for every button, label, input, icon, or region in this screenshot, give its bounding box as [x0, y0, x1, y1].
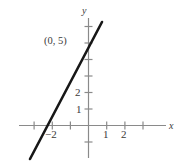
x-tick-label-2: 2: [121, 129, 127, 140]
y-tick-label-2: 2: [75, 87, 81, 98]
y-axis-label: y: [82, 6, 86, 16]
point-annotation-label: (0, 5): [44, 36, 67, 47]
graph-canvas: [0, 0, 183, 166]
coordinate-plane-figure: y x (0, 5) −2 1 2 1 2: [0, 0, 183, 166]
x-axis-label: x: [169, 121, 173, 131]
x-tick-label-1: 1: [103, 129, 109, 140]
x-tick-label-neg2: −2: [45, 129, 57, 140]
y-tick-label-1: 1: [76, 104, 82, 115]
